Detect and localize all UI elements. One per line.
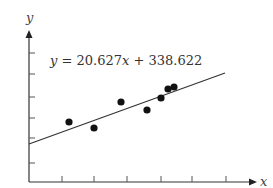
data-point — [117, 98, 124, 105]
x-axis-ticks — [62, 176, 226, 182]
scatter-chart: y x y = 20.627x + 338.622 — [0, 0, 273, 188]
data-point — [157, 94, 164, 101]
data-point — [65, 118, 72, 125]
equation-intercept: + 338.622 — [129, 53, 202, 68]
y-axis-ticks — [29, 53, 35, 163]
x-axis-label: x — [260, 174, 268, 188]
data-point — [90, 124, 97, 131]
equation-coefficient: = 20.627 — [57, 53, 122, 68]
regression-line — [29, 73, 225, 144]
x-axis-arrow-icon — [249, 179, 257, 186]
y-axis-arrow-icon — [26, 30, 33, 38]
y-axis-label: y — [25, 10, 34, 25]
regression-equation: y = 20.627x + 338.622 — [49, 53, 202, 68]
data-point — [170, 83, 177, 90]
data-point — [143, 106, 150, 113]
